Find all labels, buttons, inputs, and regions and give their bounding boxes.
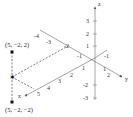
svg-text:4: 4 — [47, 85, 50, 91]
x-ticks: 1 2 3 4 5 — [37, 65, 85, 97]
star-marker: ✶ — [9, 73, 16, 82]
x-axis-label: x — [18, 93, 21, 99]
point-lower — [11, 101, 14, 104]
point-upper — [11, 51, 14, 54]
svg-text:2: 2 — [107, 72, 110, 78]
point-label-upper: (5, −2, 2) — [5, 41, 29, 49]
svg-text:2: 2 — [70, 72, 73, 78]
svg-text:-2: -2 — [83, 82, 88, 88]
x-neg-tick: -1 — [104, 53, 109, 59]
svg-text:3: 3 — [58, 78, 61, 84]
svg-text:1: 1 — [86, 43, 89, 49]
svg-text:-4: -4 — [34, 33, 39, 39]
svg-text:1: 1 — [82, 65, 85, 71]
svg-text:1: 1 — [103, 66, 106, 72]
svg-text:-1: -1 — [77, 53, 82, 59]
dashed-to-y — [12, 46, 68, 77]
z-axis-label: z — [98, 1, 101, 7]
x-axis — [25, 58, 95, 96]
svg-text:2: 2 — [86, 31, 89, 37]
svg-text:-3: -3 — [46, 39, 51, 45]
svg-text:-3: -3 — [83, 95, 88, 101]
point-label-lower: (5, −2, −2) — [5, 106, 33, 114]
svg-text:5: 5 — [37, 91, 40, 97]
y-axis-label: y — [125, 76, 128, 82]
svg-text:3: 3 — [86, 18, 89, 24]
coordinate-diagram: z 3 2 1 -2 -3 y 1 2 -1 -2 -3 -4 -1 x 1 2… — [0, 0, 133, 117]
